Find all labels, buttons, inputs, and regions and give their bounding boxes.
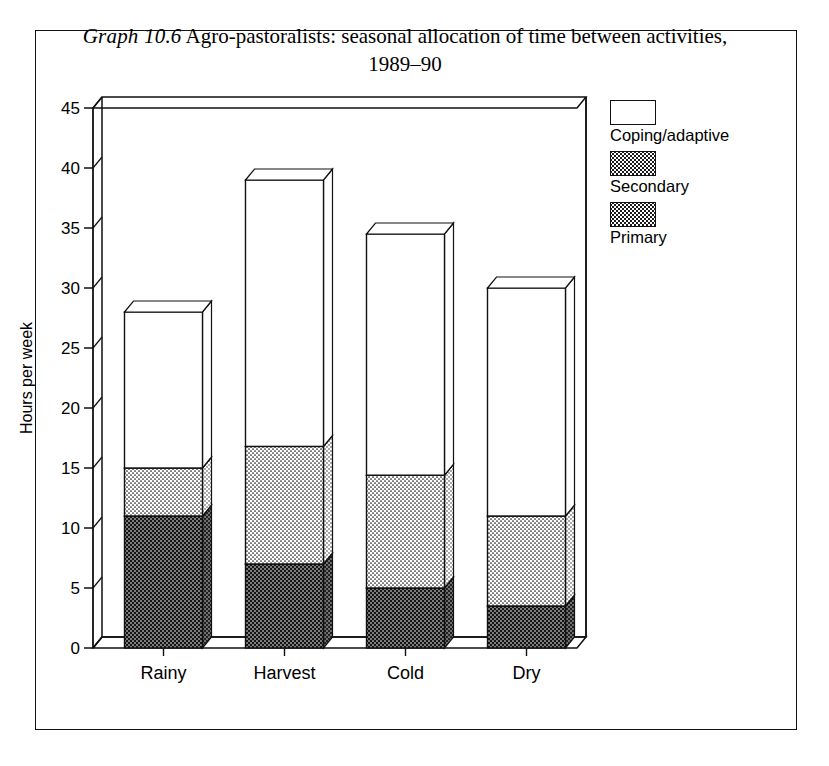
bar-group [125,301,212,648]
x-tick-label: Harvest [253,663,315,683]
bar-segment-primary [246,564,324,648]
bar-top-face-coping [367,223,454,234]
y-tick-depth [93,457,102,468]
bar-side-face-primary [203,505,212,648]
bar-segment-coping [367,234,445,475]
y-tick-label: 15 [61,459,80,478]
bar-side-face-coping [445,223,454,475]
y-tick-label: 35 [61,219,80,238]
y-tick-label: 45 [61,99,80,118]
x-tick-label: Cold [387,663,424,683]
bar-side-face-secondary [445,464,454,588]
y-tick-depth [93,337,102,348]
chart-plot-area: 051015202530354045Hours per weekRainyHar… [0,0,762,700]
y-tick-label: 40 [61,159,80,178]
bar-side-face-coping [324,169,333,446]
bar-group [488,277,575,648]
bar-segment-primary [367,588,445,648]
bar-segment-coping [488,288,566,516]
y-tick-depth [93,277,102,288]
page-root: Graph 10.6 Agro-pastoralists: seasonal a… [0,0,829,766]
bar-side-face-secondary [566,505,575,606]
bar-segment-coping [125,312,203,468]
x-tick-label: Dry [513,663,541,683]
bar-side-face-primary [324,553,333,648]
y-tick-depth [93,397,102,408]
y-tick-label: 30 [61,279,80,298]
bar-segment-coping [246,180,324,446]
y-tick-label: 20 [61,399,80,418]
bar-segment-secondary [125,468,203,516]
bar-top-face-coping [125,301,212,312]
bar-segment-primary [125,516,203,648]
y-tick-label: 25 [61,339,80,358]
bar-top-face-coping [488,277,575,288]
y-tick-label: 0 [71,639,80,658]
bar-side-face-secondary [324,435,333,564]
y-tick-depth [93,637,102,648]
y-axis-title: Hours per week [18,321,35,434]
bar-side-face-coping [203,301,212,468]
bar-top-face-coping [246,169,333,180]
y-tick-label: 10 [61,519,80,538]
y-tick-depth [93,217,102,228]
bar-segment-secondary [488,516,566,606]
x-tick-label: Rainy [140,663,186,683]
y-tick-depth [93,157,102,168]
bar-segment-primary [488,606,566,648]
y-tick-label: 5 [71,579,80,598]
bar-side-face-coping [566,277,575,516]
bar-segment-secondary [246,446,324,564]
bar-segment-secondary [367,475,445,588]
chart-geometry: 051015202530354045Hours per weekRainyHar… [18,97,586,683]
y-tick-depth [93,577,102,588]
chart-svg: 051015202530354045Hours per weekRainyHar… [0,0,762,700]
bar-group [367,223,454,648]
bar-side-face-primary [445,577,454,648]
axis-top-cap [93,97,586,108]
y-tick-depth [93,517,102,528]
bar-group [246,169,333,648]
